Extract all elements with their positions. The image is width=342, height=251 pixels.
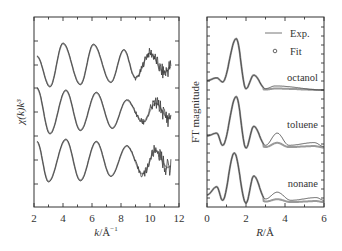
legend-fit-circle-icon xyxy=(273,49,277,53)
left-panel: 2 4 6 8 10 12 k/Å−1 χ(k)k³ xyxy=(14,17,185,238)
x-tick-2: 2 xyxy=(243,212,249,224)
x-tick-8: 8 xyxy=(118,212,124,224)
x-tick-4: 4 xyxy=(60,212,66,224)
label-toluene: toluene xyxy=(287,119,318,130)
x-tick-10: 10 xyxy=(145,212,157,224)
x-tick-2: 2 xyxy=(31,212,37,224)
right-panel: 0 2 4 6 R/Å FT magnitude Exp. Fit octano… xyxy=(189,17,327,238)
x-tick-4: 4 xyxy=(282,212,288,224)
left-plot-frame xyxy=(34,17,179,207)
x-tick-12: 12 xyxy=(174,212,185,224)
fit-curve xyxy=(37,89,171,134)
left-x-tick-labels: 2 4 6 8 10 12 xyxy=(31,212,184,224)
chi-k-curves xyxy=(37,43,171,182)
label-octanol: octanol xyxy=(287,72,318,83)
x-tick-6: 6 xyxy=(321,212,327,224)
legend-fit-label: Fit xyxy=(290,46,302,57)
left-y-axis-label: χ(k)k³ xyxy=(14,99,27,126)
right-x-axis-label: R/Å xyxy=(255,226,274,238)
figure: 2 4 6 8 10 12 k/Å−1 χ(k)k³ 0 2 4 6 R/Å F… xyxy=(0,0,342,251)
legend-exp-label: Exp. xyxy=(290,28,310,39)
label-nonane: nonane xyxy=(288,178,319,189)
legend: Exp. Fit xyxy=(265,28,310,57)
x-tick-6: 6 xyxy=(89,212,95,224)
right-y-axis-label: FT magnitude xyxy=(189,81,201,143)
x-tick-0: 0 xyxy=(204,212,210,224)
right-x-tick-labels: 0 2 4 6 xyxy=(204,212,327,224)
left-x-axis-label: k/Å−1 xyxy=(94,225,118,238)
left-axis-ticks xyxy=(34,17,179,207)
exp-curve xyxy=(37,139,171,182)
